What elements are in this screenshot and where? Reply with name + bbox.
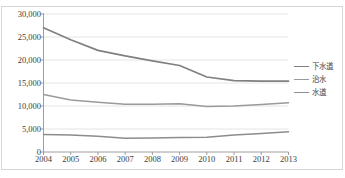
legend-item[interactable]: 下水道	[294, 60, 342, 73]
x-axis-tick-label: 2012	[248, 154, 274, 164]
series-line	[44, 95, 289, 107]
x-axis-tick-label: 2004	[31, 154, 57, 164]
legend-item[interactable]: 水道	[294, 86, 342, 99]
y-axis-tick-labels: 05,00010,00015,00020,00025,00030,000	[0, 0, 41, 178]
legend-item-label: 下水道	[312, 63, 333, 71]
x-axis-tick-label: 2009	[167, 154, 193, 164]
legend-item[interactable]: 治水	[294, 73, 342, 86]
x-axis-tick-label: 2010	[194, 154, 220, 164]
legend-line-swatch	[294, 66, 309, 67]
x-axis-tick-label: 2011	[221, 154, 247, 164]
x-axis-tick-labels: 2004200520062007200820092010201120122013	[43, 154, 289, 168]
x-axis-tick-label: 2005	[58, 154, 84, 164]
chart-legend: 下水道治水水道	[294, 60, 342, 99]
x-axis-tick-label: 2007	[112, 154, 138, 164]
y-axis-tick-label: 10,000	[1, 102, 41, 111]
x-axis-tick-label: 2008	[139, 154, 165, 164]
y-axis-tick-label: 20,000	[1, 56, 41, 65]
x-axis-tick-label: 2013	[276, 154, 302, 164]
series-line	[44, 28, 289, 81]
chart-figure: 05,00010,00015,00020,00025,00030,000 200…	[0, 0, 345, 178]
y-axis-tick-label: 30,000	[1, 10, 41, 19]
legend-line-swatch	[294, 92, 309, 93]
y-axis-tick-label: 15,000	[1, 79, 41, 88]
cut-off-footer-text	[0, 171, 345, 178]
legend-item-label: 水道	[312, 89, 326, 97]
y-axis-tick-label: 5,000	[1, 125, 41, 134]
legend-line-swatch	[294, 79, 309, 80]
series-line	[44, 132, 289, 138]
legend-item-label: 治水	[312, 76, 326, 84]
x-axis-tick-label: 2006	[85, 154, 111, 164]
y-axis-tick-label: 25,000	[1, 33, 41, 42]
